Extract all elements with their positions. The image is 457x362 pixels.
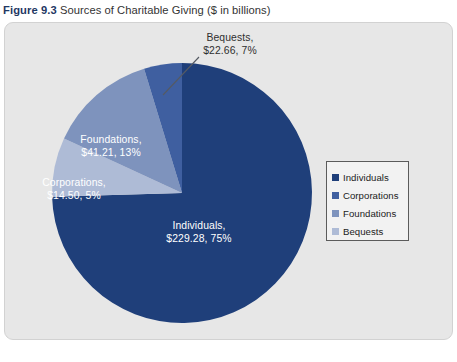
slice-label-corporations: Corporations,$14.50, 5% bbox=[18, 176, 130, 202]
source-attribution bbox=[150, 352, 455, 361]
legend-swatch-icon bbox=[332, 228, 339, 235]
slice-label-bequests: Bequests,$22.66, 7% bbox=[178, 31, 282, 57]
legend-swatch-icon bbox=[332, 192, 339, 199]
legend-label: Foundations bbox=[343, 208, 396, 219]
legend-label: Individuals bbox=[343, 172, 389, 183]
legend-label: Bequests bbox=[343, 226, 383, 237]
legend-label: Corporations bbox=[343, 190, 399, 201]
figure-caption: Figure 9.3 Sources of Charitable Giving … bbox=[3, 2, 453, 18]
legend-swatch-icon bbox=[332, 174, 339, 181]
figure-title: Sources of Charitable Giving ($ in billi… bbox=[60, 4, 271, 16]
slice-label-foundations: Foundations,$41.21, 13% bbox=[56, 133, 166, 159]
figure-number: Figure 9.3 bbox=[3, 4, 57, 16]
chart-legend: Individuals Corporations Foundations Beq… bbox=[326, 161, 409, 241]
legend-item-bequests[interactable]: Bequests bbox=[332, 222, 408, 240]
legend-item-individuals[interactable]: Individuals bbox=[332, 168, 408, 186]
legend-item-corporations[interactable]: Corporations bbox=[332, 186, 408, 204]
slice-label-individuals: Individuals,$229.28, 75% bbox=[139, 219, 259, 245]
legend-swatch-icon bbox=[332, 210, 339, 217]
legend-item-foundations[interactable]: Foundations bbox=[332, 204, 408, 222]
